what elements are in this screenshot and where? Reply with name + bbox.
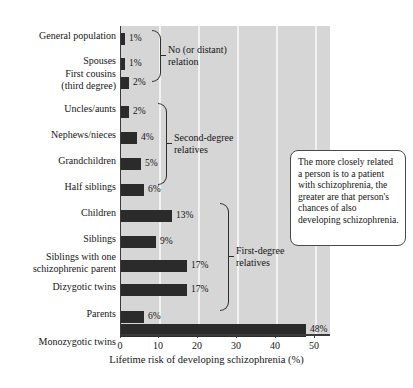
category-label-spouses: Spouses xyxy=(0,55,116,67)
category-label-half-siblings: Half siblings xyxy=(0,181,116,193)
category-label-first-cousins: First cousins (third degree) xyxy=(0,68,116,91)
bar-row: 48% xyxy=(121,317,330,341)
bar-dizygotic-twins xyxy=(121,284,187,296)
group-label-line2: relatives xyxy=(236,257,284,269)
category-label-line2: (third degree) xyxy=(0,80,116,92)
group-label-no-distant-relation: No (or distant) relation xyxy=(168,44,227,67)
bar-value-label: 1% xyxy=(129,31,142,45)
group-label-line1: No (or distant) xyxy=(168,44,227,56)
x-axis-tick-label: 50 xyxy=(309,340,319,351)
category-label-siblings-one-schizophrenic-parent: Siblings with one schizophrenic parent xyxy=(0,251,116,274)
bar-value-label: 9% xyxy=(160,234,173,248)
category-label-children: Children xyxy=(0,207,116,219)
group-label-first-degree-relatives: First-degree relatives xyxy=(236,245,284,268)
bar-half-siblings xyxy=(121,184,144,196)
bar-nephews-nieces xyxy=(121,132,137,144)
bar-value-label: 2% xyxy=(133,75,146,89)
group-label-line1: Second-degree xyxy=(174,132,233,144)
x-axis-tick xyxy=(197,334,198,338)
bracket-no-distant-relation xyxy=(152,30,161,82)
x-axis-tick-label: 40 xyxy=(270,340,280,351)
bar-value-label: 17% xyxy=(191,282,208,296)
bracket-first-degree-relatives xyxy=(220,203,229,311)
bar-first-cousins xyxy=(121,77,129,89)
category-label-grandchildren: Grandchildren xyxy=(0,155,116,167)
bar-general-population xyxy=(121,33,125,45)
bar-children xyxy=(121,210,172,222)
x-axis-tick xyxy=(158,334,159,338)
category-label-line2: schizophrenic parent xyxy=(0,263,116,275)
x-axis-tick xyxy=(236,334,237,338)
bar-grandchildren xyxy=(121,158,141,170)
category-label-parents: Parents xyxy=(0,308,116,320)
bracket-nub xyxy=(229,256,234,257)
group-label-line2: relation xyxy=(168,56,227,68)
bracket-second-degree-relatives xyxy=(158,103,167,185)
figure-schizophrenia-risk: 1% 1% 2% 2% 4% 5% 6% 13% xyxy=(0,0,413,388)
category-axis-labels: General population Spouses First cousins… xyxy=(0,26,116,334)
x-axis-title: Lifetime risk of developing schizophreni… xyxy=(0,354,413,365)
x-axis-tick-label: 30 xyxy=(231,340,241,351)
bar-spouses xyxy=(121,58,125,70)
bar-value-label: 1% xyxy=(129,56,142,70)
category-label-general-population: General population xyxy=(0,30,116,42)
bar-value-label: 13% xyxy=(176,208,193,222)
x-axis-tick xyxy=(120,334,121,338)
x-axis-tick-label: 10 xyxy=(153,340,163,351)
bar-uncles-aunts xyxy=(121,106,129,118)
bracket-nub xyxy=(167,143,172,144)
bar-value-label: 4% xyxy=(141,130,154,144)
category-label-nephews-nieces: Nephews/nieces xyxy=(0,129,116,141)
group-label-second-degree-relatives: Second-degree relatives xyxy=(174,132,233,155)
group-label-line1: First-degree xyxy=(236,245,284,257)
category-label-line1: Siblings with one xyxy=(0,251,116,263)
category-label-uncles-aunts: Uncles/aunts xyxy=(0,103,116,115)
callout-annotation: The more closely related a person is to … xyxy=(290,150,406,246)
group-label-line2: relatives xyxy=(174,144,233,156)
x-axis-tick-label: 20 xyxy=(192,340,202,351)
x-axis-tick xyxy=(275,334,276,338)
bar-row: 2% xyxy=(121,101,330,123)
category-label-dizygotic-twins: Dizygotic twins xyxy=(0,281,116,293)
bar-value-label: 2% xyxy=(133,104,146,118)
bar-siblings-one-schizophrenic-parent xyxy=(121,260,187,272)
bracket-nub xyxy=(161,55,166,56)
category-label-line1: First cousins xyxy=(0,68,116,80)
category-label-monozygotic-twins: Monozygotic twins xyxy=(0,336,116,348)
bar-value-label: 5% xyxy=(145,156,158,170)
x-axis-tick xyxy=(314,334,315,338)
x-axis-tick-label: 0 xyxy=(118,340,123,351)
category-label-siblings: Siblings xyxy=(0,233,116,245)
bar-value-label: 17% xyxy=(191,258,208,272)
bar-siblings xyxy=(121,236,156,248)
x-axis-line: 0 10 20 30 40 50 xyxy=(120,334,330,336)
